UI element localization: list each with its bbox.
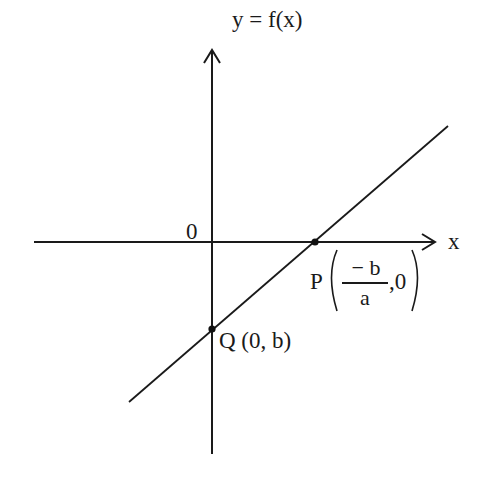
point-p-denominator: a [342,287,388,309]
point-p-numerator: − b [342,257,390,279]
function-line [129,126,448,402]
p-right-paren [412,250,418,311]
linear-function-diagram: y = f(x) x 0 P − b a ,0 Q (0, b) [0,0,485,478]
point-q-marker [208,325,215,332]
point-p-marker [311,238,318,245]
point-q-label: Q (0, b) [219,329,291,352]
x-axis-label: x [448,230,460,253]
p-left-paren [332,250,338,311]
point-p-name: P [310,270,323,293]
graph-canvas [0,0,485,478]
point-p-suffix: ,0 [389,270,406,293]
fraction-bar [342,282,388,284]
origin-label: 0 [186,220,198,243]
y-axis-label: y = f(x) [232,8,302,31]
